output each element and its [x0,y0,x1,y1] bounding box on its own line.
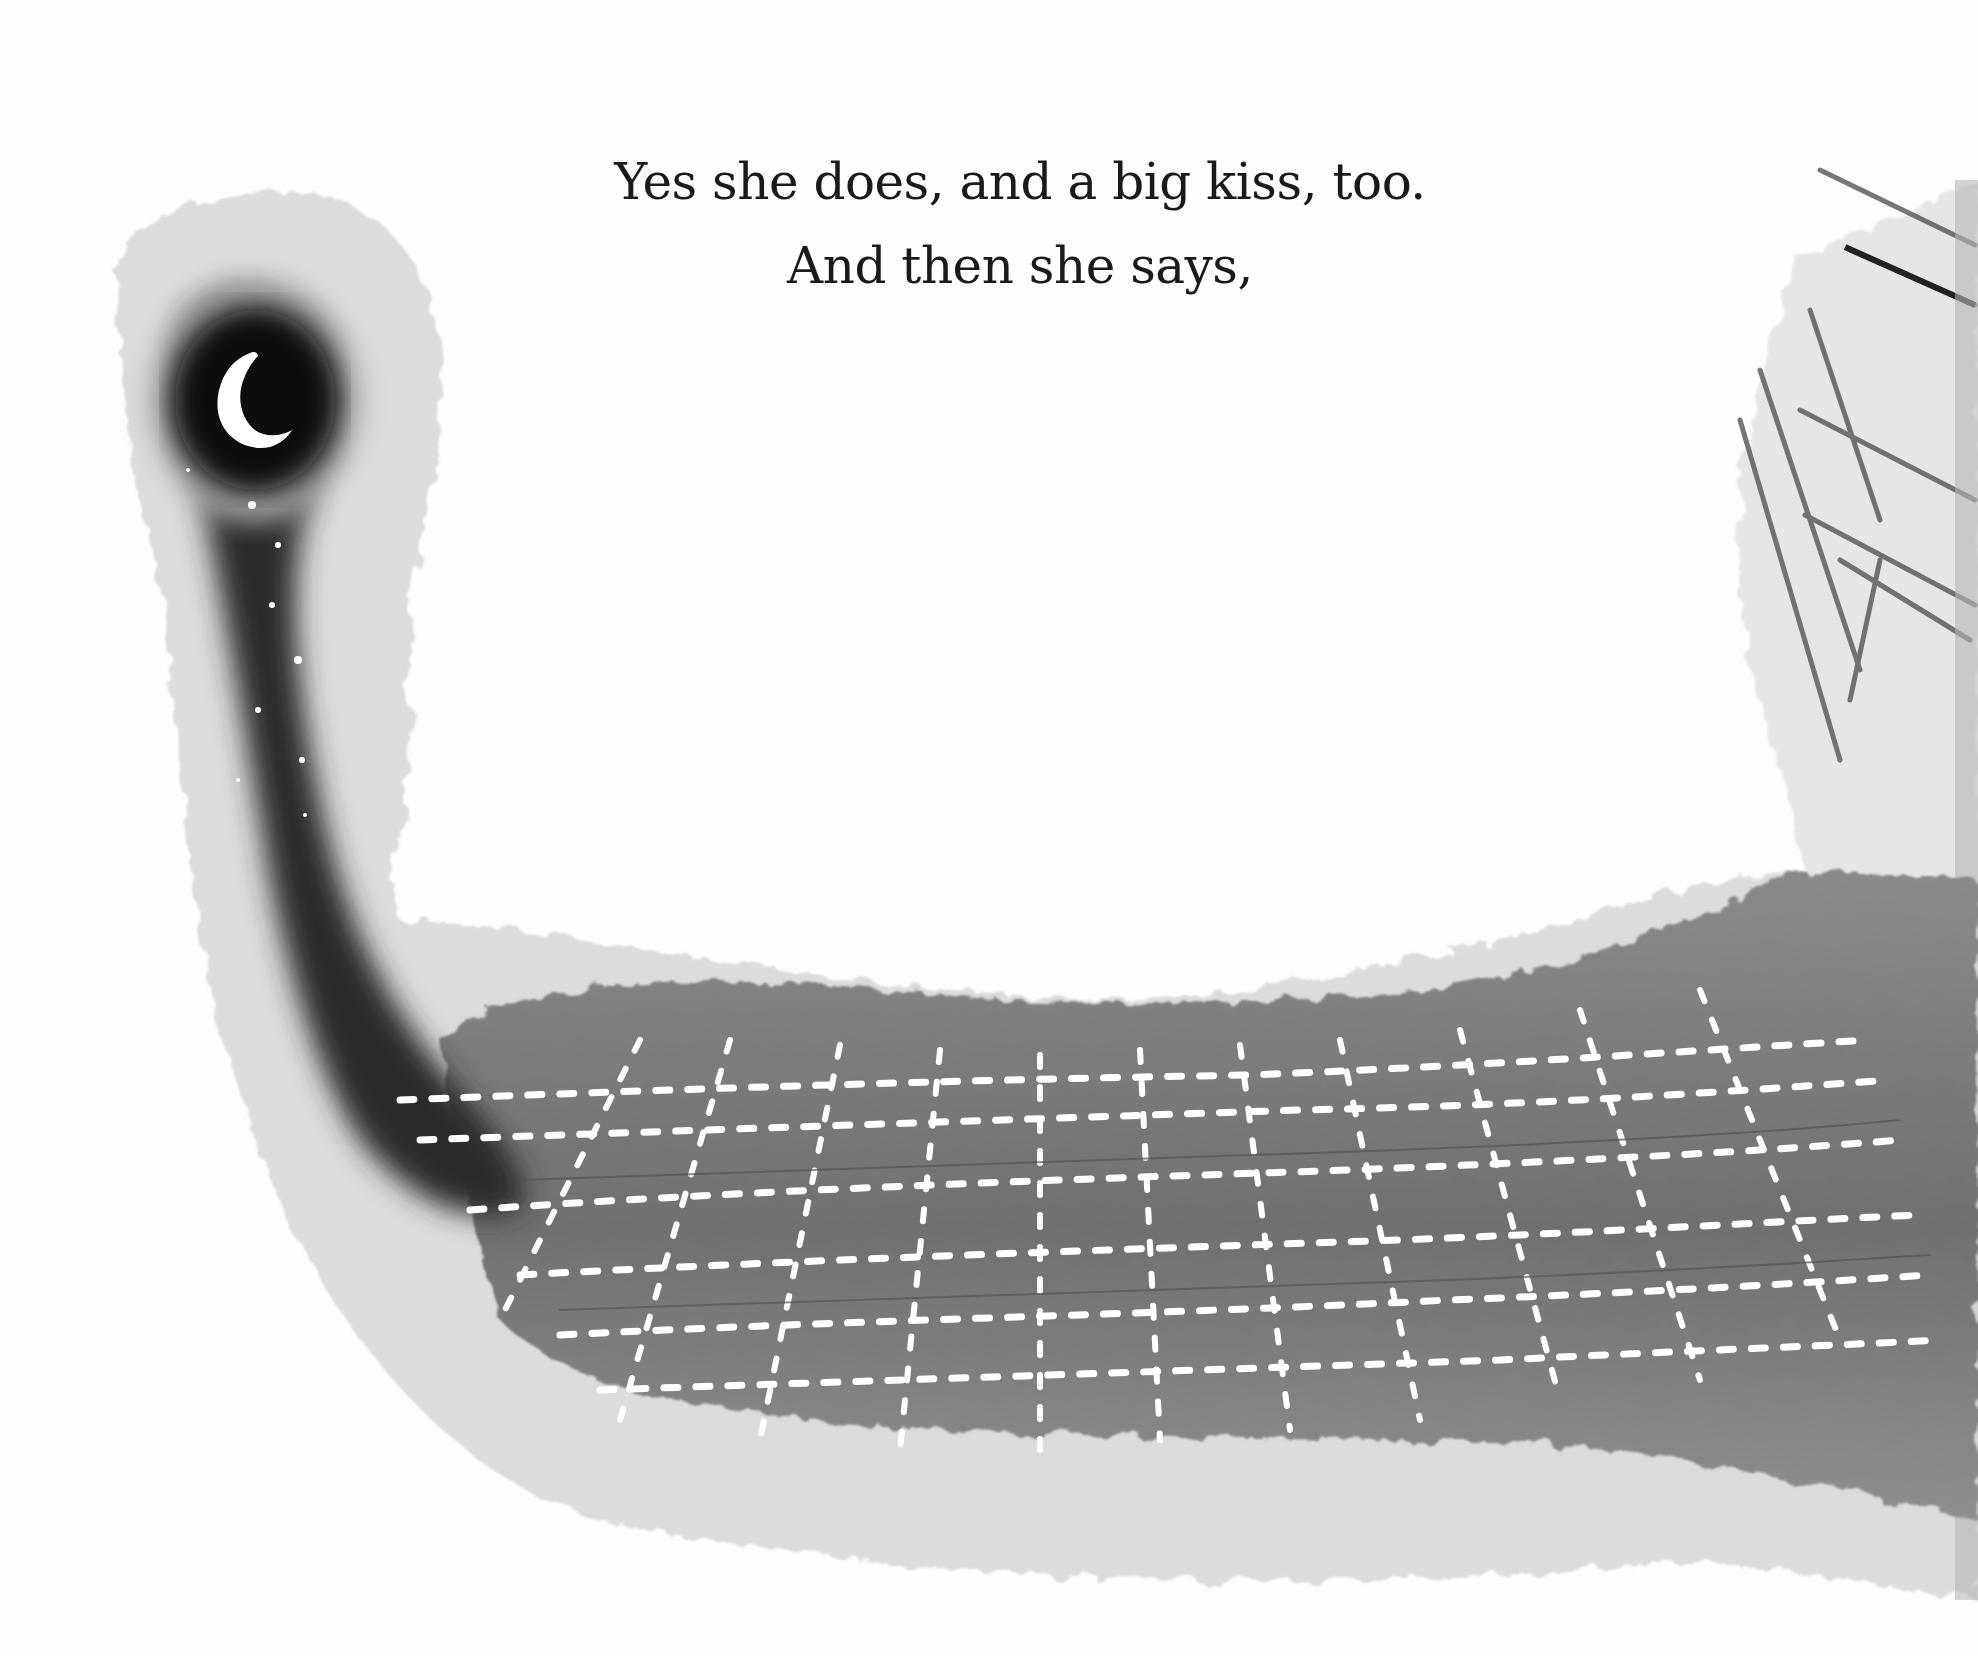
book-page: Yes she does, and a big kiss, too. And t… [0,0,1978,1656]
story-text-line-1: Yes she does, and a big kiss, too. [560,140,1480,224]
story-text: Yes she does, and a big kiss, too. And t… [560,140,1480,308]
story-text-line-2: And then she says, [560,224,1480,308]
